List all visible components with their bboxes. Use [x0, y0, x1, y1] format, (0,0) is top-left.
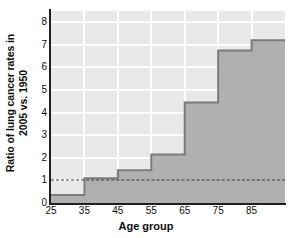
- x-tick-label: 55: [146, 205, 157, 217]
- y-tick-label: 8: [41, 17, 47, 27]
- y-tick-label: 3: [41, 130, 47, 140]
- y-axis-tick-labels: 012345678: [34, 0, 49, 238]
- step-area-series: [51, 11, 285, 203]
- y-axis-title-text: Ratio of lung cancer rates in 2005 vs. 1…: [4, 33, 30, 171]
- y-tick-label: 5: [41, 85, 47, 95]
- x-tick-label: 45: [112, 205, 123, 217]
- y-axis-title-line2: 2005 vs. 1950: [17, 70, 29, 136]
- y-axis-title-line1: Ratio of lung cancer rates in: [4, 33, 16, 171]
- y-tick-label: 4: [41, 108, 47, 118]
- y-tick-label: 2: [41, 153, 47, 163]
- y-tick-label: 6: [41, 62, 47, 72]
- x-tick-label: 35: [79, 205, 90, 217]
- x-tick-label: 65: [179, 205, 190, 217]
- chart-figure: Ratio of lung cancer rates in 2005 vs. 1…: [0, 0, 292, 238]
- reference-line-at-one: [51, 180, 285, 181]
- y-tick-label: 1: [41, 175, 47, 185]
- x-tick-label: 75: [213, 205, 224, 217]
- plot-area: [51, 11, 285, 203]
- x-tick-label: 25: [45, 205, 56, 217]
- x-axis-tick-labels: 25354555657585: [0, 205, 292, 219]
- y-tick-label: 7: [41, 40, 47, 50]
- x-axis-title: Age group: [0, 220, 292, 232]
- x-tick-label: 85: [246, 205, 257, 217]
- y-axis-title: Ratio of lung cancer rates in 2005 vs. 1…: [0, 0, 34, 205]
